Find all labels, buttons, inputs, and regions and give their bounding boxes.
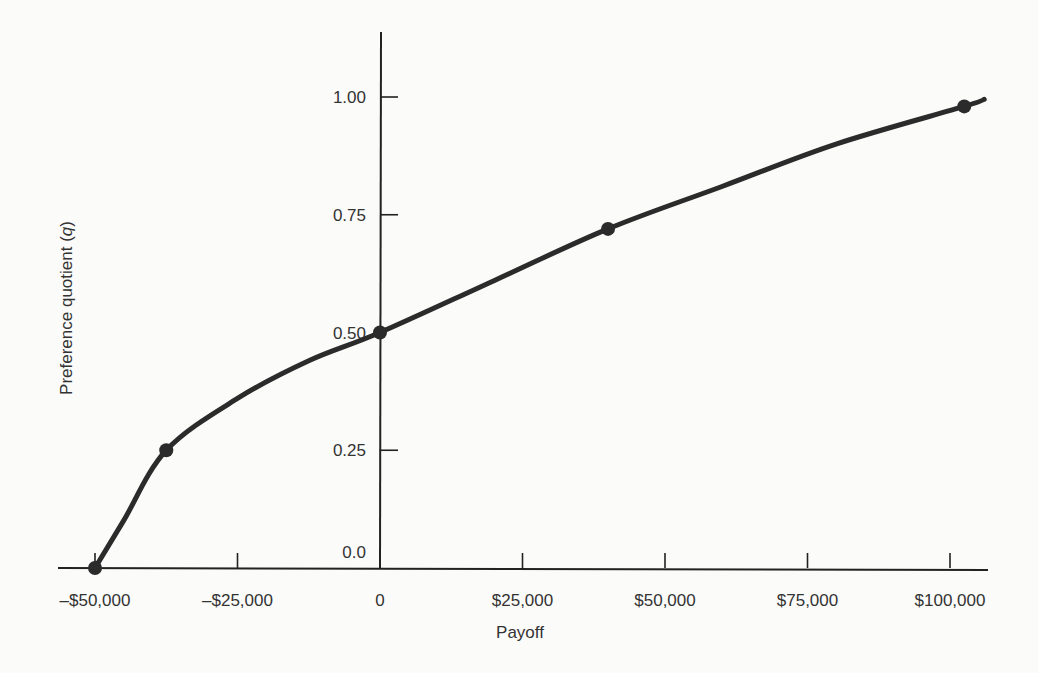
data-point-marker xyxy=(88,561,102,575)
utility-curve xyxy=(95,99,984,568)
y-axis xyxy=(380,32,381,569)
x-tick-label: 0 xyxy=(375,591,384,610)
y-tick-label: 0.0 xyxy=(342,543,366,562)
x-tick-label: $75,000 xyxy=(777,591,838,610)
x-tick-label: $50,000 xyxy=(634,591,695,610)
data-point-marker xyxy=(601,222,615,236)
utility-chart: –$50,000–$25,0000$25,000$50,000$75,000$1… xyxy=(0,0,1038,673)
x-tick-label: $25,000 xyxy=(492,591,553,610)
y-axis-title: Preference quotient (q) xyxy=(57,221,76,395)
y-tick-label: 1.00 xyxy=(333,88,366,107)
x-tick-label: –$50,000 xyxy=(60,591,131,610)
data-point-marker xyxy=(373,326,387,340)
data-point-marker xyxy=(957,99,971,113)
x-ticks: –$50,000–$25,0000$25,000$50,000$75,000$1… xyxy=(60,553,986,610)
x-axis xyxy=(58,568,988,570)
x-tick-label: $100,000 xyxy=(915,591,986,610)
x-tick-label: –$25,000 xyxy=(202,591,273,610)
x-axis-title: Payoff xyxy=(496,623,544,642)
data-point-marker xyxy=(159,443,173,457)
axes xyxy=(58,32,988,570)
y-ticks: 0.00.250.500.751.00 xyxy=(333,88,398,562)
y-tick-label: 0.25 xyxy=(333,441,366,460)
y-tick-label: 0.75 xyxy=(333,206,366,225)
data-points xyxy=(88,99,971,575)
